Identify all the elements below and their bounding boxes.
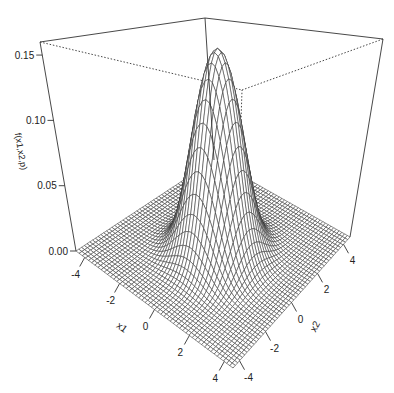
z-axis-label: f(x1,x2,p) <box>13 132 29 171</box>
x2-axis-tick-label: 4 <box>350 255 356 266</box>
x1-axis-label: x1 <box>115 320 130 335</box>
z-axis-tick-label: 0.00 <box>49 246 69 257</box>
x2-axis-tick <box>318 273 323 282</box>
x1-axis-tick-label: 2 <box>178 347 184 358</box>
box-edge <box>40 42 76 251</box>
x2-axis-tick-label: 2 <box>324 284 330 295</box>
box-edge <box>40 18 205 42</box>
x1-axis-tick <box>115 284 120 293</box>
box-edge <box>205 18 383 39</box>
x1-axis-tick <box>219 362 224 371</box>
z-axis-tick-label: 0.15 <box>15 50 35 61</box>
x2-axis-label: x2 <box>308 319 323 334</box>
hidden-box-edge <box>242 39 383 90</box>
x2-axis-tick-label: 0 <box>298 314 304 325</box>
x2-axis-tick <box>292 303 297 312</box>
x1-axis-tick <box>80 258 85 267</box>
x2-axis-tick-label: -4 <box>244 372 253 383</box>
x2-axis-tick-label: -2 <box>270 343 279 354</box>
x2-axis-tick <box>344 244 349 253</box>
x2-axis-tick <box>266 332 271 341</box>
x1-axis-tick <box>150 310 155 319</box>
x1-axis-tick <box>184 336 189 345</box>
x1-axis-tick-label: 0 <box>143 321 149 332</box>
surface-wireframe <box>76 48 350 368</box>
surface-plot: 0.000.050.100.15-4-2024-4-2024 f(x1,x2,p… <box>0 0 394 393</box>
z-axis-tick-label: 0.10 <box>26 115 46 126</box>
x1-axis-tick-label: -2 <box>106 295 115 306</box>
x1-axis-tick-label: 4 <box>212 373 218 384</box>
x2-axis-tick <box>240 361 245 370</box>
box-edge <box>350 39 383 237</box>
x1-axis-tick-label: -4 <box>71 269 80 280</box>
z-axis-tick-label: 0.05 <box>37 180 57 191</box>
